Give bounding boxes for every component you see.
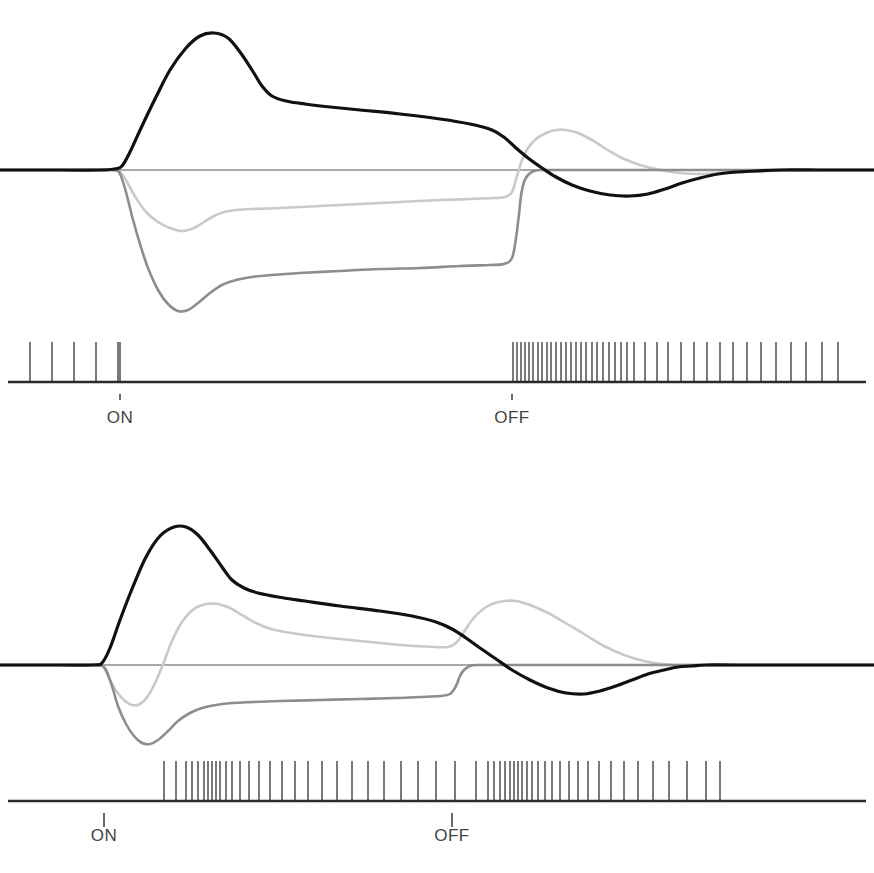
- upper-panel-trace-area: [0, 0, 874, 330]
- lower-panel-trace-area: [0, 440, 874, 760]
- lower-panel-traces: [0, 440, 874, 760]
- neural-response-figure: ON OFF ON OFF: [0, 0, 874, 873]
- trace-black-upper: [0, 33, 874, 196]
- trace-black-lower: [0, 526, 874, 694]
- lower-panel-raster-area: [0, 760, 874, 830]
- trace-light-gray-lower: [0, 601, 874, 706]
- upper-panel-raster-area: [0, 330, 874, 400]
- lower-panel: ON OFF: [0, 440, 874, 873]
- upper-panel-spike-raster: [0, 330, 874, 400]
- lower-panel-spike-raster: [0, 760, 874, 830]
- upper-panel-traces: [0, 0, 874, 330]
- upper-on-label: ON: [107, 408, 134, 428]
- upper-panel: ON OFF: [0, 0, 874, 440]
- lower-on-label: ON: [91, 826, 118, 846]
- upper-off-label: OFF: [494, 408, 530, 428]
- lower-off-label: OFF: [434, 826, 470, 846]
